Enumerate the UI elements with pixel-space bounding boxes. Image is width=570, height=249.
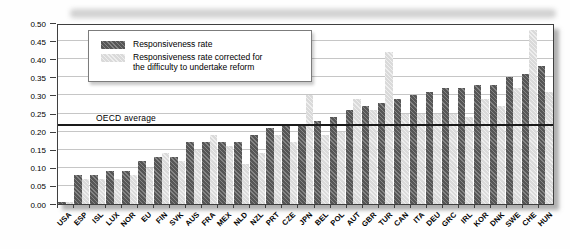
bar-corrected-POL <box>337 132 345 204</box>
x-tick-mark <box>378 205 379 208</box>
bar-responsiveness-MEX <box>218 142 226 204</box>
bar-corrected-KOR <box>481 99 489 204</box>
legend-label-corrected: Responsiveness rate corrected for the di… <box>133 52 262 73</box>
y-tick-label-0.00: 0.00 <box>6 201 46 210</box>
chart-figure: 0.000.050.100.150.200.250.300.350.400.45… <box>0 0 570 249</box>
x-tick-mark <box>249 205 250 208</box>
legend-entry-responsiveness: Responsiveness rate <box>99 39 303 50</box>
y-tick-mark <box>50 168 56 169</box>
oecd-average-line <box>58 124 553 126</box>
bar-responsiveness-DNK <box>490 85 498 204</box>
oecd-average-label: OECD average <box>96 113 156 123</box>
y-tick-mark <box>50 77 56 78</box>
bar-group-GBR <box>361 25 377 204</box>
bar-corrected-USA <box>66 202 74 204</box>
bar-responsiveness-IRL <box>458 88 466 204</box>
bar-responsiveness-ESP <box>74 175 82 204</box>
bar-corrected-TUR <box>385 52 393 204</box>
x-tick-mark <box>137 205 138 208</box>
bar-responsiveness-FIN <box>154 157 162 204</box>
x-tick-mark <box>121 205 122 208</box>
y-tick-mark <box>50 186 56 187</box>
bar-responsiveness-GRC <box>442 88 450 204</box>
x-tick-mark <box>538 205 539 208</box>
x-tick-mark <box>442 205 443 208</box>
x-tick-mark <box>297 205 298 208</box>
x-tick-mark <box>217 205 218 208</box>
bar-corrected-NZL <box>258 153 266 204</box>
bar-group-DEU <box>425 25 441 204</box>
bar-responsiveness-SWE <box>506 77 514 204</box>
bar-corrected-NLD <box>242 164 250 204</box>
bar-group-USA <box>58 25 74 204</box>
bar-responsiveness-BEL <box>314 121 322 204</box>
y-tick-label-0.20: 0.20 <box>6 128 46 137</box>
y-tick-label-0.30: 0.30 <box>6 92 46 101</box>
y-tick-mark <box>50 114 56 115</box>
bar-corrected-SWE <box>513 88 521 204</box>
x-tick-mark <box>362 205 363 208</box>
y-tick-mark <box>50 23 56 24</box>
bar-corrected-LUX <box>114 179 122 204</box>
y-tick-label-0.35: 0.35 <box>6 74 46 83</box>
x-tick-mark <box>265 205 266 208</box>
bar-group-AUT <box>345 25 361 204</box>
bar-responsiveness-KOR <box>474 85 482 204</box>
bar-responsiveness-GBR <box>362 106 370 204</box>
bar-group-POL <box>329 25 345 204</box>
legend-swatch-dark <box>101 41 125 49</box>
x-tick-mark <box>346 205 347 208</box>
y-tick-label-0.05: 0.05 <box>6 182 46 191</box>
x-tick-mark <box>394 205 395 208</box>
y-tick-mark <box>50 132 56 133</box>
bar-group-DNK <box>489 25 505 204</box>
bar-responsiveness-HUN <box>538 66 546 204</box>
bar-group-SWE <box>505 25 521 204</box>
y-tick-label-0.10: 0.10 <box>6 164 46 173</box>
y-tick-mark <box>50 95 56 96</box>
bar-responsiveness-NOR <box>122 171 130 204</box>
x-tick-mark <box>185 205 186 208</box>
x-tick-mark <box>426 205 427 208</box>
x-tick-mark <box>153 205 154 208</box>
bar-corrected-SVK <box>178 161 186 204</box>
scan-shadow-top <box>70 9 556 18</box>
bar-corrected-ITA <box>417 114 425 205</box>
bar-corrected-FRA <box>210 135 218 204</box>
bar-responsiveness-AUS <box>186 142 194 204</box>
legend-label-responsiveness: Responsiveness rate <box>133 39 212 50</box>
bar-group-KOR <box>473 25 489 204</box>
y-tick-label-0.15: 0.15 <box>6 146 46 155</box>
bar-responsiveness-JPN <box>298 124 306 204</box>
y-tick-label-0.50: 0.50 <box>6 20 46 29</box>
bar-group-CHE <box>521 25 537 204</box>
x-tick-mark <box>233 205 234 208</box>
bar-corrected-ESP <box>82 179 90 204</box>
x-tick-mark <box>474 205 475 208</box>
y-tick-label-0.25: 0.25 <box>6 110 46 119</box>
x-tick-mark <box>330 205 331 208</box>
bar-group-IRL <box>457 25 473 204</box>
x-tick-mark <box>169 205 170 208</box>
y-tick-mark <box>50 59 56 60</box>
bar-corrected-IRL <box>465 117 473 204</box>
x-tick-mark <box>201 205 202 208</box>
bar-corrected-DEU <box>433 114 441 205</box>
x-tick-mark <box>57 205 58 208</box>
y-tick-label-0.40: 0.40 <box>6 56 46 65</box>
bar-responsiveness-CAN <box>394 99 402 204</box>
bar-responsiveness-NZL <box>250 135 258 204</box>
y-tick-label-0.45: 0.45 <box>6 38 46 47</box>
bar-responsiveness-NLD <box>234 142 242 204</box>
bar-responsiveness-USA <box>58 202 66 204</box>
y-tick-mark <box>50 41 56 42</box>
x-tick-mark <box>458 205 459 208</box>
bar-corrected-HUN <box>545 92 553 204</box>
x-tick-mark <box>281 205 282 208</box>
bar-corrected-CAN <box>401 114 409 205</box>
bar-group-GRC <box>441 25 457 204</box>
bar-corrected-ISL <box>98 179 106 204</box>
x-tick-mark <box>490 205 491 208</box>
bar-responsiveness-ISL <box>90 175 98 204</box>
x-tick-mark <box>522 205 523 208</box>
